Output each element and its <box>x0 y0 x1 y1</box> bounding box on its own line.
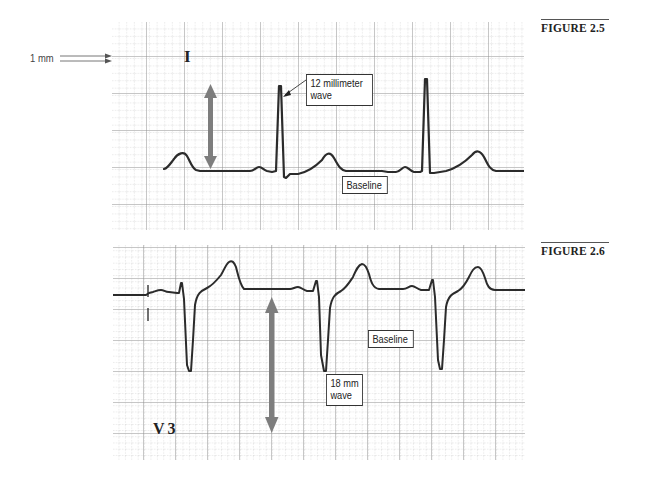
callout-baseline-lead-i: Baseline <box>342 176 388 194</box>
figure-label-2-6: FIGURE 2.6 <box>541 245 605 257</box>
scale-arrows-1mm <box>58 53 114 65</box>
lead-label-v3: V3 <box>153 420 179 438</box>
figure-rule-2-6 <box>541 242 609 243</box>
figure-label-2-5: FIGURE 2.5 <box>541 22 605 34</box>
scale-label-1mm: 1 mm <box>30 52 54 64</box>
callout-18mm-wave: 18 mm wave <box>326 374 363 406</box>
figure-rule-2-5 <box>541 19 609 20</box>
ecg-grid-lead-i <box>112 22 524 230</box>
callout-12mm-wave: 12 millimeter wave <box>306 74 373 106</box>
callout-baseline-lead-v3: Baseline <box>368 330 414 348</box>
ecg-strip-lead-i <box>112 22 524 230</box>
lead-label-i: I <box>184 47 191 67</box>
